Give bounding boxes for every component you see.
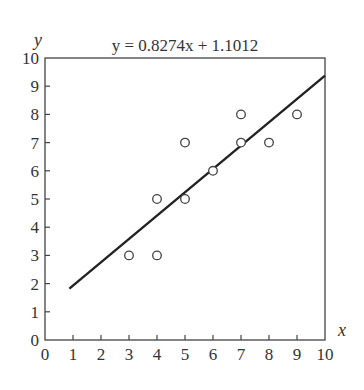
- x-tick-label: 1: [69, 345, 78, 364]
- y-tick-label: 9: [31, 77, 40, 96]
- data-point-marker: [265, 138, 274, 147]
- x-tick-label: 4: [153, 345, 162, 364]
- x-tick-label: 9: [293, 345, 302, 364]
- data-points: [125, 110, 302, 260]
- tick-labels: 012345678910012345678910: [22, 49, 334, 364]
- data-point-marker: [237, 110, 246, 119]
- data-point-marker: [293, 110, 302, 119]
- chart-title: y = 0.8274x + 1.1012: [112, 36, 259, 55]
- data-point-marker: [181, 138, 190, 147]
- x-tick-label: 5: [181, 345, 190, 364]
- y-tick-label: 6: [31, 162, 40, 181]
- y-tick-label: 1: [31, 303, 40, 322]
- x-tick-label: 6: [209, 345, 218, 364]
- data-point-marker: [237, 138, 246, 147]
- y-tick-label: 2: [31, 275, 40, 294]
- x-tick-label: 10: [317, 345, 334, 364]
- scatter-chart: 012345678910012345678910 y = 0.8274x + 1…: [0, 0, 364, 390]
- y-tick-label: 8: [31, 105, 40, 124]
- y-tick-label: 5: [31, 190, 40, 209]
- chart-canvas: 012345678910012345678910 y = 0.8274x + 1…: [0, 0, 364, 390]
- y-tick-label: 10: [22, 49, 39, 68]
- data-point-marker: [125, 251, 134, 260]
- x-tick-label: 2: [97, 345, 106, 364]
- y-tick-label: 7: [31, 134, 40, 153]
- x-tick-label: 8: [265, 345, 274, 364]
- y-axis-label: y: [32, 30, 42, 50]
- y-tick-label: 0: [31, 331, 40, 350]
- data-point-marker: [209, 167, 218, 176]
- x-tick-label: 7: [237, 345, 246, 364]
- y-tick-label: 4: [31, 218, 40, 237]
- data-point-marker: [153, 195, 162, 204]
- x-tick-label: 3: [125, 345, 134, 364]
- fit-line: [69, 76, 325, 289]
- y-tick-label: 3: [31, 246, 40, 265]
- x-tick-label: 0: [41, 345, 50, 364]
- x-axis-label: x: [337, 320, 346, 340]
- data-point-marker: [153, 251, 162, 260]
- axis-ticks: [45, 86, 297, 340]
- data-point-marker: [181, 195, 190, 204]
- regression-line: [69, 76, 325, 289]
